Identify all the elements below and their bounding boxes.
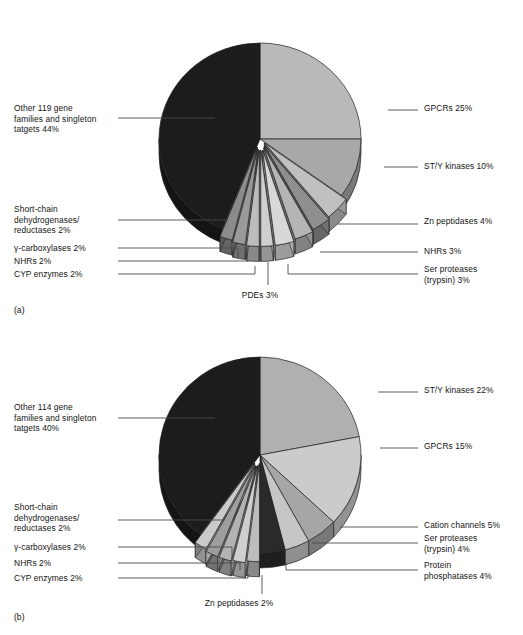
label-sty-kinases-b: ST/Y kinases 22% [424, 385, 494, 396]
pie-chart-b-graphic [0, 330, 523, 635]
label-pdes-a: PDEs 3% [225, 290, 295, 301]
pie-chart-panel-a: Other 119 genefamilies and singletontatg… [0, 0, 523, 330]
label-protein-phosphatases-b: Proteinphosphatases 4% [424, 560, 492, 581]
label-nhrs-left-a: NHRs 2% [14, 256, 51, 267]
label-cyp-enzymes-b: CYP enzymes 2% [14, 573, 83, 584]
label-ser-proteases-b: Ser proteases(trypsin) 4% [424, 533, 477, 554]
label-short-chain-dehydrogenases-b: Short-chaindehydrogenases/reductases 2% [14, 502, 80, 534]
pie-chart-panel-b: Other 114 genefamilies and singletontatg… [0, 330, 523, 635]
panel-tag-a: (a) [14, 305, 25, 315]
label-gamma-carboxylases-b: γ-carboxylases 2% [14, 542, 86, 553]
label-zn-peptidases-a: Zn peptidases 4% [424, 216, 492, 227]
panel-tag-b: (b) [14, 612, 25, 622]
label-nhrs-right-a: NHRs 3% [424, 246, 461, 257]
label-cation-channels-b: Cation channels 5% [424, 520, 500, 531]
label-short-chain-dehydrogenases-a: Short-chaindehydrogenases/reductases 2% [14, 204, 80, 236]
label-cyp-enzymes-a: CYP enzymes 2% [14, 269, 83, 280]
label-other-gene-families-a: Other 119 genefamilies and singletontatg… [14, 103, 96, 135]
label-ser-proteases-a: Ser proteases(trypsin) 3% [424, 264, 477, 285]
label-gpcrs-a: GPCRs 25% [424, 103, 472, 114]
cut-off-caption [14, 629, 16, 635]
label-sty-kinases-a: ST/Y kinases 10% [424, 161, 494, 172]
label-gpcrs-b: GPCRs 15% [424, 441, 472, 452]
label-zn-peptidases-b: Zn peptidases 2% [184, 598, 294, 609]
label-nhrs-left-b: NHRs 2% [14, 558, 51, 569]
label-gamma-carboxylases-a: γ-carboxylases 2% [14, 243, 86, 254]
label-other-gene-families-b: Other 114 genefamilies and singletontatg… [14, 402, 96, 434]
